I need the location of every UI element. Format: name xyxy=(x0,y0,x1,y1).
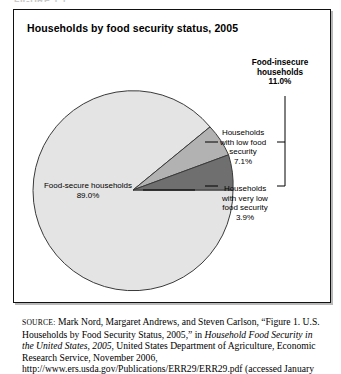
label-very-low-food-security-value: 3.9% xyxy=(236,213,254,222)
label-low-food-security: Households with low food security 7.1% xyxy=(212,128,274,166)
label-low-food-security-line3: security xyxy=(229,147,257,156)
label-very-low-food-security-line3: food security xyxy=(222,203,267,212)
label-food-insecure-line1: Food-insecure xyxy=(252,58,308,67)
label-food-secure-name: Food-secure households xyxy=(44,181,132,190)
clipped-figure-header: FIGURE 1.1 xyxy=(14,0,67,2)
grouping-bracket xyxy=(277,142,285,186)
label-food-secure: Food-secure households 89.0% xyxy=(22,181,154,200)
label-very-low-food-security-line1: Households xyxy=(224,184,266,193)
label-food-insecure: Food-insecure households 11.0% xyxy=(232,58,328,87)
pie-chart xyxy=(13,9,331,303)
label-low-food-security-line2: with low food xyxy=(220,138,266,147)
source-note: SOURCE: Mark Nord, Margaret Andrews, and… xyxy=(22,316,324,374)
label-very-low-food-security: Households with very low food security 3… xyxy=(212,184,278,222)
pie-svg xyxy=(13,9,331,303)
label-food-insecure-value: 11.0% xyxy=(269,77,292,86)
label-food-insecure-line2: households xyxy=(257,68,303,77)
source-label: SOURCE: xyxy=(22,318,55,327)
label-low-food-security-line1: Households xyxy=(222,128,264,137)
label-low-food-security-value: 7.1% xyxy=(234,157,252,166)
label-food-secure-value: 89.0% xyxy=(77,191,100,200)
label-very-low-food-security-line2: with very low xyxy=(222,194,268,203)
figure-container: FIGURE 1.1 Households by food security s… xyxy=(0,0,341,374)
